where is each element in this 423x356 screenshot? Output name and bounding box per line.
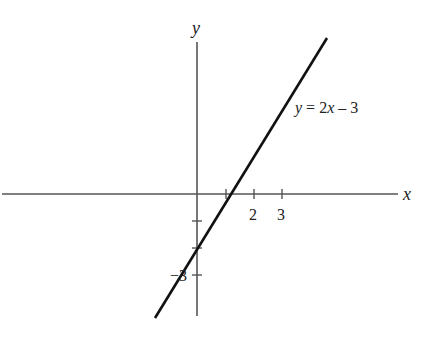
x-axis-label: x: [402, 184, 411, 204]
y-axis-label: y: [190, 18, 200, 38]
tick-label-y-neg3: −3: [170, 267, 187, 284]
graph-canvas: x y 2 3 −3 y = 2x – 3: [0, 0, 423, 356]
tick-label-x3: 3: [277, 206, 285, 223]
equation-label: y = 2x – 3: [293, 99, 358, 117]
tick-label-x2: 2: [249, 206, 257, 223]
